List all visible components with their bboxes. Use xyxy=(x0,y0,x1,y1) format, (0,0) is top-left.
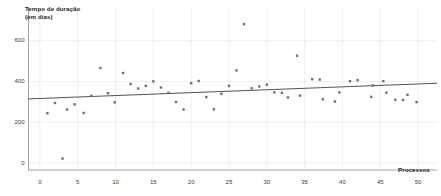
data-point xyxy=(167,92,169,94)
data-point xyxy=(90,95,92,97)
x-tick-label: 45 xyxy=(370,179,390,185)
x-tick-label: 50 xyxy=(408,179,428,185)
data-point xyxy=(402,99,404,101)
data-point xyxy=(322,98,324,100)
data-point xyxy=(258,85,260,87)
data-point xyxy=(299,94,301,96)
x-axis-title: Processos xyxy=(398,166,430,174)
x-tick-label: 15 xyxy=(143,179,163,185)
gridlines xyxy=(29,8,438,170)
x-tick-label: 40 xyxy=(332,179,352,185)
axis-lines xyxy=(29,8,438,170)
data-point xyxy=(73,103,75,105)
data-point xyxy=(319,78,321,80)
data-point xyxy=(385,91,387,93)
data-point xyxy=(338,91,340,93)
data-point xyxy=(243,23,245,25)
data-point xyxy=(137,87,139,89)
data-point xyxy=(114,101,116,103)
x-tick-label: 10 xyxy=(105,179,125,185)
trendline xyxy=(29,83,438,99)
x-tick-label: 0 xyxy=(30,179,50,185)
data-point xyxy=(107,92,109,94)
data-point xyxy=(46,112,48,114)
x-tick-label: 35 xyxy=(295,179,315,185)
y-tick-label: 600 xyxy=(7,37,25,43)
data-point xyxy=(394,99,396,101)
data-point xyxy=(61,157,63,159)
x-tick-label: 25 xyxy=(219,179,239,185)
data-point xyxy=(235,69,237,71)
data-point xyxy=(129,83,131,85)
data-point xyxy=(182,108,184,110)
data-point xyxy=(296,55,298,57)
data-point xyxy=(190,82,192,84)
data-point xyxy=(281,92,283,94)
data-point xyxy=(311,78,313,80)
data-point xyxy=(66,108,68,110)
x-tick-label: 5 xyxy=(68,179,88,185)
y-tick-label: 0 xyxy=(7,160,25,166)
data-point xyxy=(175,101,177,103)
data-point xyxy=(382,80,384,82)
data-point xyxy=(349,80,351,82)
data-point xyxy=(205,96,207,98)
y-axis-title-line1: Tempo de duração xyxy=(25,5,80,12)
data-point xyxy=(228,85,230,87)
data-point xyxy=(287,96,289,98)
data-point xyxy=(152,80,154,82)
data-point xyxy=(334,100,336,102)
data-point xyxy=(145,85,147,87)
x-tick-label: 30 xyxy=(257,179,277,185)
data-point xyxy=(266,83,268,85)
data-point xyxy=(220,93,222,95)
y-axis-title-line2: (em dias) xyxy=(25,13,53,20)
data-point xyxy=(160,86,162,88)
trendline-segment xyxy=(29,83,438,99)
data-point xyxy=(198,80,200,82)
data-point xyxy=(406,94,408,96)
data-point xyxy=(122,72,124,74)
data-point xyxy=(213,108,215,110)
y-tick-label: 200 xyxy=(7,119,25,125)
data-point xyxy=(356,79,358,81)
data-point xyxy=(83,112,85,114)
scatter-chart: Tempo de duração(em dias) Processos 0200… xyxy=(0,0,441,196)
x-tick-label: 20 xyxy=(181,179,201,185)
y-tick-label: 400 xyxy=(7,78,25,84)
plot-area xyxy=(0,0,441,196)
data-point xyxy=(415,101,417,103)
data-point xyxy=(250,87,252,89)
data-point xyxy=(273,91,275,93)
data-point xyxy=(99,67,101,69)
data-point xyxy=(370,96,372,98)
data-point xyxy=(371,84,373,86)
data-point xyxy=(54,102,56,104)
y-axis-title: Tempo de duração(em dias) xyxy=(25,5,80,20)
